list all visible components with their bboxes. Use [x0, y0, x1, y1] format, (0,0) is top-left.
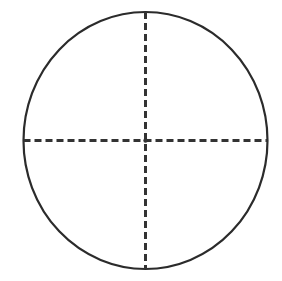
figure-container	[0, 0, 282, 281]
center-point	[143, 138, 147, 142]
circle-diagram	[0, 0, 282, 281]
figure-background	[0, 0, 282, 281]
